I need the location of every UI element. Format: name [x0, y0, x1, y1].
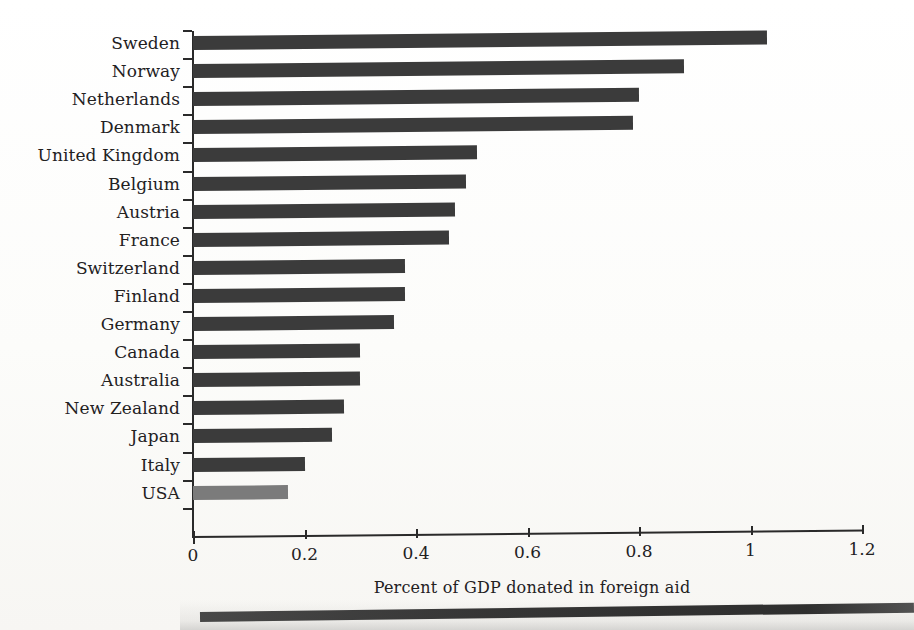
- category-label-norway: Norway: [112, 63, 180, 80]
- y-tick-sweden: [183, 30, 192, 32]
- bar-denmark: [193, 116, 634, 134]
- y-tick-austria: [183, 199, 192, 201]
- category-label-france: France: [119, 232, 180, 249]
- category-label-australia: Australia: [101, 372, 180, 389]
- x-tick-label-1: 1: [745, 541, 756, 559]
- bar-australia: [193, 372, 360, 388]
- scan-page-edge: [200, 603, 914, 622]
- y-tick-italy: [183, 452, 192, 454]
- category-label-usa: USA: [141, 485, 180, 502]
- bar-netherlands: [193, 88, 639, 106]
- bar-italy: [193, 456, 305, 471]
- y-tick-france: [183, 227, 192, 229]
- y-tick-finland: [183, 283, 192, 285]
- bar-austria: [193, 202, 455, 219]
- category-label-sweden: Sweden: [111, 35, 180, 52]
- x-tick-label-0-8: 0.8: [625, 542, 652, 560]
- category-label-united-kingdom: United Kingdom: [38, 147, 181, 164]
- bar-sweden: [193, 30, 767, 50]
- bar-france: [193, 230, 450, 246]
- category-label-new-zealand: New Zealand: [65, 400, 180, 417]
- bar-usa: [193, 485, 288, 500]
- bar-germany: [193, 315, 394, 331]
- bar-norway: [193, 59, 684, 78]
- y-tick-germany: [183, 311, 192, 313]
- y-tick-united-kingdom: [183, 142, 192, 144]
- x-tick-1-2: [862, 525, 864, 534]
- category-label-switzerland: Switzerland: [76, 260, 180, 277]
- category-label-italy: Italy: [141, 457, 180, 474]
- y-tick-netherlands: [183, 86, 192, 88]
- x-axis-title-text: Percent of GDP donated in foreign aid: [374, 578, 691, 597]
- y-tick-canada: [183, 339, 192, 341]
- category-label-germany: Germany: [101, 316, 180, 333]
- bar-canada: [193, 343, 360, 359]
- x-tick-label-0-4: 0.4: [402, 544, 429, 562]
- bar-japan: [193, 428, 333, 443]
- bar-united-kingdom: [193, 146, 477, 163]
- x-tick-label-1-2: 1.2: [848, 540, 875, 558]
- y-tick-japan: [183, 423, 192, 425]
- y-tick-usa: [183, 480, 192, 482]
- category-label-finland: Finland: [114, 288, 180, 305]
- y-tick-norway: [183, 58, 192, 60]
- category-label-belgium: Belgium: [108, 176, 180, 193]
- category-label-canada: Canada: [114, 344, 180, 361]
- category-label-austria: Austria: [117, 204, 180, 221]
- page-canvas: SwedenNorwayNetherlandsDenmarkUnited Kin…: [0, 0, 914, 630]
- x-tick-0-6: [528, 528, 530, 537]
- x-tick-label-0: 0: [188, 546, 199, 564]
- x-tick-label-0-2: 0.2: [291, 545, 318, 563]
- y-tick-switzerland: [183, 255, 192, 257]
- x-tick-label-0-6: 0.6: [514, 543, 541, 561]
- x-tick-1: [751, 526, 753, 535]
- y-tick-axis-end: [183, 508, 192, 510]
- y-tick-denmark: [183, 114, 192, 116]
- bar-finland: [193, 287, 405, 303]
- bar-new-zealand: [193, 400, 344, 415]
- y-tick-belgium: [183, 171, 192, 173]
- y-tick-australia: [183, 367, 192, 369]
- x-tick-0-8: [639, 527, 641, 536]
- x-axis-title: Percent of GDP donated in foreign aid: [0, 578, 914, 597]
- x-tick-0-4: [416, 529, 418, 538]
- category-label-japan: Japan: [131, 428, 180, 445]
- category-label-denmark: Denmark: [100, 119, 180, 136]
- category-label-netherlands: Netherlands: [72, 91, 180, 108]
- y-tick-new-zealand: [183, 395, 192, 397]
- bar-chart: SwedenNorwayNetherlandsDenmarkUnited Kin…: [0, 0, 914, 630]
- bar-switzerland: [193, 259, 405, 275]
- x-tick-0-2: [305, 530, 307, 539]
- bar-belgium: [193, 174, 466, 191]
- x-tick-0: [193, 531, 195, 544]
